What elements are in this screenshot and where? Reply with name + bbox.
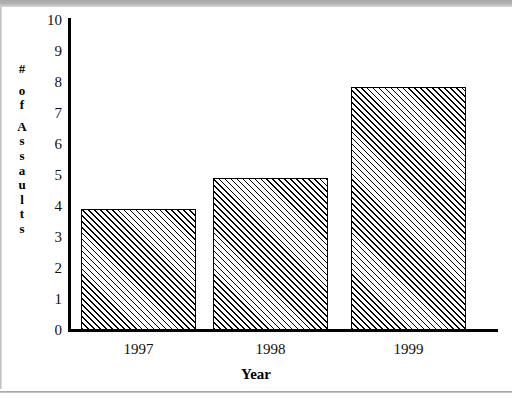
y-tick-label: 6	[34, 137, 62, 152]
y-tick-label: 0	[34, 323, 62, 338]
y-axis-line	[68, 18, 71, 332]
y-tick-label: 7	[34, 106, 62, 121]
y-axis-title-char: a	[10, 164, 34, 179]
y-axis-title-char: l	[10, 193, 34, 208]
bar-1999	[351, 87, 466, 330]
bar-chart-plot: 109876543210 #ofAssaults 199719981999 Ye…	[0, 0, 512, 402]
y-axis-title-char: s	[10, 134, 34, 149]
y-axis-title-char: u	[10, 178, 34, 193]
x-tick-label: 1998	[213, 341, 328, 358]
y-tick-label: 3	[34, 230, 62, 245]
y-axis-title-char: s	[10, 222, 34, 237]
y-tick-label: 2	[34, 261, 62, 276]
y-axis-title-char: o	[10, 84, 34, 99]
y-axis-title-char: f	[10, 98, 34, 113]
y-axis-title-char: s	[10, 149, 34, 164]
y-tick-label: 1	[34, 292, 62, 307]
y-axis-title-char: t	[10, 207, 34, 222]
y-tick-label: 5	[34, 168, 62, 183]
y-tick-label: 10	[34, 13, 62, 28]
y-tick-label: 8	[34, 75, 62, 90]
y-axis-title-char: #	[10, 62, 34, 77]
y-tick-label: 4	[34, 199, 62, 214]
y-tick-label: 9	[34, 44, 62, 59]
y-axis-title: #ofAssaults	[10, 62, 34, 237]
chart-page: 109876543210 #ofAssaults 199719981999 Ye…	[0, 0, 512, 402]
bar-1998	[213, 178, 328, 330]
bar-1997	[81, 209, 196, 330]
x-tick-label: 1997	[81, 341, 196, 358]
x-tick-label: 1999	[351, 341, 466, 358]
x-axis-title: Year	[0, 366, 512, 383]
y-axis-title-char: A	[10, 120, 34, 135]
